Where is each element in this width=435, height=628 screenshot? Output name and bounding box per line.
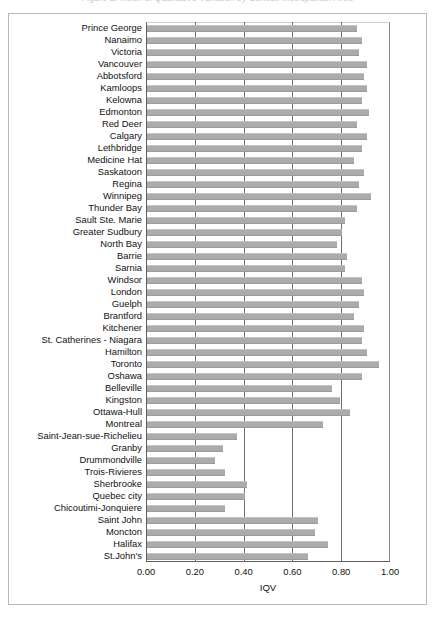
category-label: Drummondville <box>79 455 142 465</box>
category-label: Saskatoon <box>98 167 142 177</box>
bar <box>147 289 364 296</box>
category-label: Kingston <box>106 395 142 405</box>
bar-fill <box>147 493 245 500</box>
category-label: Greater Sudbury <box>73 227 142 237</box>
category-label: Ottawa-Hull <box>93 407 142 417</box>
bar-fill <box>147 373 362 380</box>
category-label: North Bay <box>100 239 142 249</box>
value-axis-ticks: 0.000.200.400.600.801.00 <box>146 566 390 580</box>
category-label: Toronto <box>111 359 142 369</box>
bar-fill <box>147 205 357 212</box>
bar <box>147 409 350 416</box>
bar <box>147 553 308 560</box>
category-label: Granby <box>111 443 142 453</box>
category-label: Calgary <box>110 131 142 141</box>
bar <box>147 421 323 428</box>
category-label: Sherbrooke <box>94 479 142 489</box>
bar-fill <box>147 265 345 272</box>
x-tick-label: 0.20 <box>175 566 215 577</box>
x-axis-title: IQV <box>146 582 390 593</box>
bar <box>147 25 357 32</box>
bar-fill <box>147 289 364 296</box>
category-label: Sault Ste. Marie <box>75 215 142 225</box>
bar <box>147 445 223 452</box>
bar <box>147 457 215 464</box>
bar <box>147 205 357 212</box>
bar <box>147 193 371 200</box>
bar-fill <box>147 361 379 368</box>
bar <box>147 397 340 404</box>
category-label: Halifax <box>113 539 142 549</box>
bar <box>147 469 225 476</box>
bar-fill <box>147 445 223 452</box>
bar <box>147 373 362 380</box>
bar <box>147 121 357 128</box>
bar <box>147 253 347 260</box>
bar <box>147 49 359 56</box>
category-label: Windsor <box>108 275 142 285</box>
bar-fill <box>147 325 364 332</box>
bar-fill <box>147 385 332 392</box>
bar-fill <box>147 193 371 200</box>
bar-fill <box>147 97 362 104</box>
bar-fill <box>147 133 367 140</box>
bar <box>147 385 332 392</box>
category-label: Vancouver <box>98 59 142 69</box>
bar-fill <box>147 73 364 80</box>
bar-fill <box>147 277 362 284</box>
bar <box>147 109 369 116</box>
category-label: Moncton <box>106 527 142 537</box>
category-label: Brantford <box>103 311 142 321</box>
bar <box>147 169 364 176</box>
bar <box>147 361 379 368</box>
bar-fill <box>147 37 362 44</box>
bar-fill <box>147 421 323 428</box>
bar <box>147 73 364 80</box>
bar <box>147 97 362 104</box>
bar-fill <box>147 85 367 92</box>
bar-fill <box>147 529 315 536</box>
bar-fill <box>147 169 364 176</box>
category-label: St. Catherines - Niagara <box>41 335 142 345</box>
category-label: Medicine Hat <box>87 155 142 165</box>
bar <box>147 133 367 140</box>
category-label: Abbotsford <box>97 71 142 81</box>
bar <box>147 37 362 44</box>
category-label: Thunder Bay <box>88 203 142 213</box>
bar <box>147 229 342 236</box>
category-label: Quebec city <box>92 491 142 501</box>
bar-fill <box>147 481 247 488</box>
bar-fill <box>147 433 237 440</box>
bar-fill <box>147 337 362 344</box>
category-label: Lethbridge <box>98 143 142 153</box>
bar-fill <box>147 157 354 164</box>
x-tick-label: 0.00 <box>126 566 166 577</box>
bar <box>147 337 362 344</box>
bar-fill <box>147 469 225 476</box>
category-label: Montreal <box>106 419 142 429</box>
bar <box>147 61 367 68</box>
category-label: Prince George <box>82 23 142 33</box>
category-label: Kamloops <box>100 83 142 93</box>
category-label: Oshawa <box>108 371 142 381</box>
bar-fill <box>147 181 359 188</box>
category-label: Chicoutimi-Jonquiere <box>54 503 142 513</box>
bar-fill <box>147 457 215 464</box>
bar-fill <box>147 121 357 128</box>
bar-fill <box>147 145 362 152</box>
category-label: Saint John <box>98 515 142 525</box>
bar-fill <box>147 61 367 68</box>
category-label: Nanaimo <box>104 35 142 45</box>
bar-fill <box>147 109 369 116</box>
bar <box>147 529 315 536</box>
bar-fill <box>147 505 225 512</box>
bar <box>147 157 354 164</box>
bar-fill <box>147 517 318 524</box>
category-label: Hamilton <box>105 347 142 357</box>
category-label: London <box>111 287 142 297</box>
category-label: Regina <box>112 179 142 189</box>
bar <box>147 217 345 224</box>
bar-fill <box>147 553 308 560</box>
bar <box>147 85 367 92</box>
bar-fill <box>147 301 359 308</box>
